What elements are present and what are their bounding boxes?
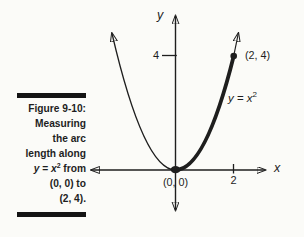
highlighted-arc [176,57,234,171]
graph-canvas [0,0,304,237]
x-tick-label-2: 2 [227,174,240,187]
y-tick-label-4: 4 [145,49,159,62]
origin-point-label: (0, 0) [153,176,198,189]
figure-panel: Figure 9-10: Measuring the arc length al… [0,0,304,237]
endpoint-label: (2, 4) [245,49,270,62]
origin-point-dot [171,166,181,173]
x-axis-label: x [274,162,280,175]
curve-equation-label: y = x2 [228,92,257,105]
endpoint-dot [230,53,237,60]
parabola-left-arm [112,34,176,171]
y-axis-label: y [157,9,163,22]
